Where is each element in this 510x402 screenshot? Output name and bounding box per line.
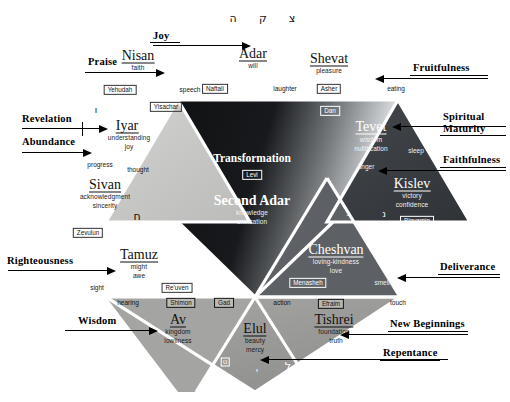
- month-av-attr-1: lowliness: [164, 338, 191, 345]
- month-kislev-name: Kislev: [394, 177, 431, 192]
- month-tishrei-attr-1: truth: [329, 338, 343, 345]
- month-av-name: Av: [170, 313, 186, 328]
- month-sivan-name: Sivan: [89, 178, 121, 193]
- tribe-naftali: Naftali: [202, 84, 228, 94]
- arrow-praise: [85, 72, 157, 73]
- callout-deliverance: Deliverance: [440, 262, 495, 273]
- callout-repentance-rule: [380, 360, 440, 361]
- month-cheshvan-name: Cheshvan: [308, 243, 363, 258]
- month-tevet-attr-1: nullification: [354, 146, 387, 153]
- callout-new-beginnings: New Beginnings: [390, 319, 465, 330]
- sense-hearing: hearing: [117, 300, 139, 307]
- arrow-spiritual-maturity: [400, 126, 506, 127]
- month-sivan-attr-0: acknowledgment: [80, 194, 130, 201]
- tribe-asher: Asher: [317, 84, 341, 94]
- arrow-righteousness: [8, 270, 108, 271]
- callout-repentance: Repentance: [383, 348, 438, 359]
- sense-speech: speech: [180, 87, 201, 94]
- callout-joy-rule: [150, 42, 180, 43]
- hebrew-letter-nun-kislev: נ: [382, 210, 386, 219]
- diagram-canvas: Transformation Levi Second Adar knowledg…: [0, 0, 510, 402]
- arrow-fruitfulness: [383, 78, 488, 79]
- arrow-wisdom: [65, 330, 150, 331]
- hebrew-letter-yod: י: [256, 367, 258, 376]
- hebrew-letter-chet: ח: [133, 211, 140, 222]
- hebrew-letter-he: ה: [229, 13, 236, 24]
- month-kislev-attr-1: confidence: [396, 202, 428, 209]
- callout-deliverance-rule: [438, 274, 500, 275]
- month-elul-attr-1: mercy: [246, 347, 264, 354]
- tribe-dan: Dan: [320, 106, 340, 116]
- callout-faithfulness-rule: [440, 167, 506, 168]
- month-elul-name: Elul: [243, 322, 266, 337]
- callout-fruitfulness: Fruitfulness: [413, 63, 470, 74]
- month-adar-attr-0: will: [248, 63, 257, 70]
- sense-touch: touch: [390, 300, 406, 307]
- tribe-yehudah: Yehudah: [104, 85, 137, 95]
- tribe-menasheh: Menasheh: [289, 278, 326, 288]
- arrow-revelation-vertical: [82, 122, 83, 136]
- center-attr-unification: unification: [237, 219, 267, 226]
- hebrew-letter-nun-cheshvan: נ: [346, 209, 350, 218]
- month-iyar-attr-1: joy: [125, 144, 134, 151]
- callout-spiritual-maturity-line1: Spiritual: [443, 112, 484, 123]
- tribe-binyamin: Binyamin: [400, 216, 434, 226]
- arrow-joy: [153, 45, 243, 46]
- callout-faithfulness: Faithfulness: [443, 155, 500, 166]
- center-tribe-levi: Levi: [242, 170, 262, 180]
- tribe-reuven: Re'uven: [162, 283, 193, 293]
- callout-wisdom: Wisdom: [78, 316, 116, 327]
- arrow-repentance: [268, 359, 448, 360]
- hebrew-letter-ayin: ע: [401, 100, 407, 109]
- sense-sight: sight: [90, 285, 104, 292]
- month-cheshvan-attr-0: loving-kindness: [313, 259, 359, 266]
- month-shevat-name: Shevat: [310, 52, 348, 67]
- sense-smell: smell: [374, 280, 389, 287]
- callout-fruitfulness-rule: [410, 75, 488, 76]
- callout-praise: Praise: [88, 57, 117, 68]
- arrow-new-beginnings: [348, 334, 468, 335]
- callout-joy: Joy: [153, 31, 169, 42]
- month-kislev-attr-0: victory: [402, 193, 421, 200]
- sense-anger: anger: [358, 164, 375, 171]
- callout-spiritual-maturity-rule: [440, 135, 506, 136]
- arrow-faithfulness: [386, 170, 506, 171]
- month-iyar-attr-0: understanding: [108, 135, 151, 142]
- sense-action: action: [273, 300, 290, 307]
- callout-righteousness: Righteousness: [7, 256, 73, 267]
- callout-abundance: Abundance: [22, 137, 75, 148]
- callout-revelation: Revelation: [22, 114, 72, 125]
- month-nisan-attr-0: faith: [132, 65, 145, 72]
- month-tevet-attr-0: wisdom: [360, 137, 383, 144]
- month-tamuz-attr-0: might: [131, 264, 147, 271]
- sense-eating: eating: [387, 86, 405, 93]
- center-transformation-label: Transformation: [213, 153, 291, 165]
- tribe-yisachar: Yisachar: [150, 102, 182, 112]
- tribe-zevulun: Zevulun: [73, 228, 103, 238]
- month-tamuz-attr-1: awe: [133, 273, 145, 280]
- tribe-shimon: Shimon: [166, 298, 195, 308]
- month-shevat-attr-0: pleasure: [316, 68, 342, 75]
- sense-sleep: sleep: [408, 148, 424, 155]
- arrow-revelation: [22, 128, 100, 129]
- month-cheshvan-attr-1: love: [330, 268, 342, 275]
- center-attr-knowledge: knowledge: [236, 210, 268, 217]
- hebrew-letter-tsadi: צ: [289, 13, 296, 24]
- month-iyar-name: Iyar: [116, 119, 139, 134]
- month-elul-attr-0: beauty: [245, 338, 265, 345]
- month-nisan-name: Nisan: [122, 49, 155, 64]
- month-tishrei-name: Tishrei: [314, 313, 353, 328]
- center-second-adar-label: Second Adar: [214, 194, 291, 208]
- month-av-attr-0: kingdom: [165, 329, 190, 336]
- month-tamuz-name: Tamuz: [120, 248, 158, 263]
- month-sivan-attr-1: sincerity: [93, 203, 118, 210]
- hebrew-letter-samech-box: ס: [421, 117, 430, 126]
- hebrew-letter-vav: ו: [95, 106, 97, 115]
- tribe-gad: Gad: [214, 298, 234, 308]
- sense-thought: thought: [127, 167, 149, 174]
- tribe-efraim: Efraim: [318, 299, 344, 309]
- hebrew-letter-lamed: ל: [285, 361, 291, 372]
- arrow-deliverance: [405, 277, 500, 278]
- sense-progress: progress: [87, 162, 112, 169]
- arrow-abundance: [22, 152, 84, 153]
